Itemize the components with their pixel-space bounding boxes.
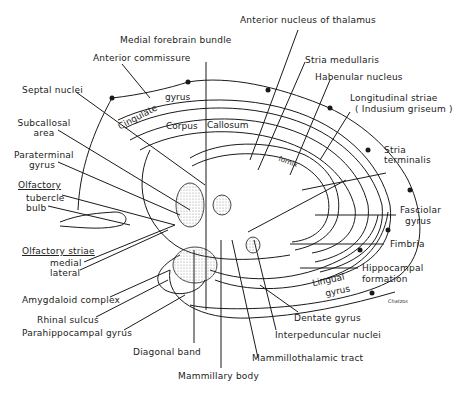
label-fasciolar: Fasciolar <box>400 205 441 215</box>
label-callosum: Callosum <box>207 120 248 130</box>
label-indusium-griseum: ( Indusium griseum ) <box>355 104 453 114</box>
label-mammillary-body: Mammillary body <box>178 371 259 381</box>
habenula-blob <box>246 237 260 253</box>
label-medial: medial <box>50 258 82 268</box>
label-mammillothalamic-tract: Mammillothalamic tract <box>252 353 363 363</box>
label-interpeduncular-nuclei: Interpeduncular nuclei <box>275 330 381 340</box>
label-parahippocampal-gyrus: Parahippocampal gyrus <box>22 328 132 338</box>
label-fimbria: Fimbria <box>390 239 425 249</box>
label-diagonal-band: Diagonal band <box>133 347 201 357</box>
hippocampus-outline <box>210 215 378 279</box>
label-corpus: Corpus <box>166 121 198 131</box>
fornix-outline <box>190 144 339 250</box>
label-paraterminal: Paraterminal <box>14 150 70 160</box>
anterior-thalamus-blob <box>213 195 231 215</box>
label-fasciolar-gyrus: gyrus <box>405 216 431 226</box>
label-rhinal-sulcus: Rhinal sulcus <box>37 315 99 325</box>
label-amygdaloid-complex: Amygdaloid complex <box>22 295 120 305</box>
label-subcallosal: Subcallosal <box>16 118 72 128</box>
label-subcallosal-area: area <box>16 128 72 138</box>
label-paraterminal-gyrus: gyrus <box>14 160 70 170</box>
label-hippocampal-formation: formation <box>362 274 408 284</box>
label-lateral: lateral <box>50 268 80 278</box>
label-cingulate-gyrus: gyrus <box>165 92 190 102</box>
label-medial-forebrain-bundle: Medial forebrain bundle <box>120 35 232 45</box>
olfactory-bulb-outline <box>60 212 126 228</box>
label-olfactory: Olfactory <box>18 180 61 190</box>
label-anterior-nucleus-thalamus: Anterior nucleus of thalamus <box>240 15 376 25</box>
amygdala-mass <box>173 247 217 283</box>
label-septal-nuclei: Septal nuclei <box>22 85 83 95</box>
label-hippocampal: Hippocampal <box>362 263 423 273</box>
label-olfactory-striae: Olfactory striae <box>22 246 95 256</box>
label-stria-medullaris: Stria medullaris <box>305 55 379 65</box>
label-longitudinal-striae: Longitudinal striae <box>350 93 438 103</box>
label-dentate-gyrus: Dentate gyrus <box>294 313 361 323</box>
artist-signature: Chatzos <box>388 298 408 304</box>
label-olfactory-bulb: bulb <box>26 203 46 213</box>
septal-mass <box>176 183 204 227</box>
label-habenular-nucleus: Habenular nucleus <box>315 72 403 82</box>
label-olfactory-tubercle: tubercle <box>26 193 65 203</box>
label-stria-terminalis: terminalis <box>384 155 431 165</box>
label-anterior-commissure: Anterior commissure <box>93 53 191 63</box>
label-stria: Stria <box>384 145 406 155</box>
